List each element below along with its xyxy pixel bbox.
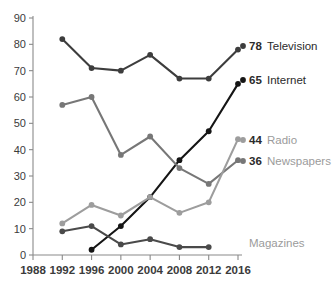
series-magazines <box>59 223 211 250</box>
y-tick-label: 60 <box>14 91 26 103</box>
series-newspapers <box>59 94 241 187</box>
data-point <box>177 165 183 171</box>
data-point <box>206 128 212 134</box>
y-tick-label: 10 <box>14 223 26 235</box>
data-point <box>118 68 124 74</box>
data-point <box>59 221 65 227</box>
y-tick-label: 20 <box>14 196 26 208</box>
data-point <box>235 136 241 142</box>
series-path <box>92 84 238 250</box>
data-point <box>118 242 124 248</box>
y-tick-label: 0 <box>20 249 26 261</box>
data-point <box>177 76 183 82</box>
x-tick-label: 1988 <box>20 264 46 276</box>
y-tick-label: 40 <box>14 144 26 156</box>
series-lines <box>59 36 241 252</box>
data-point <box>235 81 241 87</box>
series-path <box>62 97 238 184</box>
data-point <box>206 76 212 82</box>
line-chart: 0102030405060708090 19881992199620002004… <box>0 0 336 287</box>
data-point <box>89 94 95 100</box>
x-tick-label: 2004 <box>137 264 163 276</box>
y-tick-label: 90 <box>14 12 26 24</box>
series-television <box>59 36 241 81</box>
y-axis-labels: 0102030405060708090 <box>14 12 26 261</box>
data-point <box>59 228 65 234</box>
data-point <box>206 199 212 205</box>
data-point <box>59 102 65 108</box>
y-tick-label: 50 <box>14 117 26 129</box>
series-internet <box>89 81 241 253</box>
x-tick-label: 2000 <box>108 264 134 276</box>
series-path <box>62 226 208 247</box>
x-tick-label: 1996 <box>79 264 105 276</box>
end-label-dot <box>240 137 246 143</box>
chart-canvas: 0102030405060708090 19881992199620002004… <box>0 0 336 287</box>
data-point <box>89 202 95 208</box>
data-point <box>89 65 95 71</box>
end-label-name: Magazines <box>249 237 305 249</box>
data-point <box>235 157 241 163</box>
data-point <box>147 236 153 242</box>
data-point <box>89 247 95 253</box>
data-point <box>147 134 153 140</box>
end-label-dot <box>240 158 246 164</box>
data-point <box>206 181 212 187</box>
data-point <box>59 36 65 42</box>
data-point <box>177 210 183 216</box>
series-radio <box>59 136 241 226</box>
series-end-labels: 78Television65Internet36Newspapers44Radi… <box>240 40 331 249</box>
end-label-name: Internet <box>267 74 307 86</box>
y-tick-label: 30 <box>14 170 26 182</box>
end-label-value: 44 <box>249 134 262 146</box>
data-point <box>118 152 124 158</box>
y-axis-ticks <box>29 18 33 255</box>
data-point <box>177 157 183 163</box>
x-tick-label: 2012 <box>196 264 222 276</box>
data-point <box>177 244 183 250</box>
x-axis-ticks <box>33 255 238 260</box>
series-path <box>62 39 238 79</box>
end-label-name: Television <box>267 40 318 52</box>
y-tick-label: 70 <box>14 65 26 77</box>
end-label-name: Newspapers <box>267 155 331 167</box>
end-label-dot <box>240 77 246 83</box>
end-label-value: 36 <box>249 155 262 167</box>
data-point <box>206 244 212 250</box>
x-tick-label: 2008 <box>167 264 193 276</box>
data-point <box>147 194 153 200</box>
end-label-dot <box>240 43 246 49</box>
y-tick-label: 80 <box>14 38 26 50</box>
x-tick-label: 1992 <box>49 264 75 276</box>
data-point <box>89 223 95 229</box>
end-label-value: 78 <box>249 40 262 52</box>
data-point <box>235 47 241 53</box>
data-point <box>118 213 124 219</box>
end-label-value: 65 <box>249 74 262 86</box>
data-point <box>118 223 124 229</box>
x-axis-labels: 19881992199620002004200820122016 <box>20 264 251 276</box>
end-label-name: Radio <box>267 134 297 146</box>
x-tick-label: 2016 <box>225 264 251 276</box>
data-point <box>147 52 153 58</box>
